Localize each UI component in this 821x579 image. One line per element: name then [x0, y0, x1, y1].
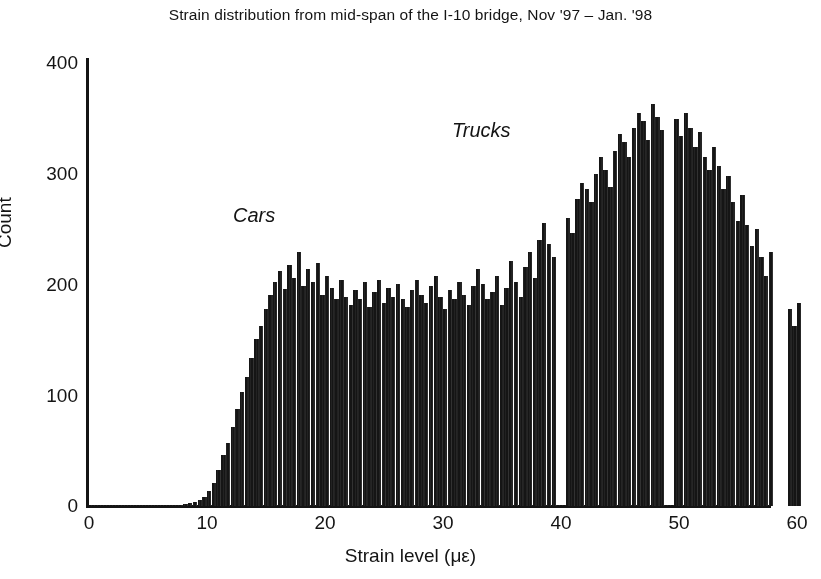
histogram-bar: [731, 202, 735, 506]
histogram-bar: [651, 104, 655, 506]
histogram-bar: [429, 286, 433, 506]
histogram-bar: [490, 292, 494, 506]
histogram-bars: [89, 62, 797, 506]
chart-title: Strain distribution from mid-span of the…: [0, 6, 821, 24]
histogram-bar: [448, 290, 452, 506]
histogram-bar: [504, 288, 508, 506]
histogram-bar: [674, 119, 678, 506]
histogram-bar: [627, 157, 631, 506]
histogram-bar: [438, 297, 442, 506]
histogram-bar: [471, 286, 475, 506]
histogram-bar: [726, 176, 730, 506]
histogram-bar: [344, 297, 348, 506]
histogram-bar: [523, 267, 527, 506]
histogram-bar: [287, 265, 291, 506]
x-tick-label-50: 50: [668, 512, 689, 534]
histogram-bar: [202, 497, 206, 507]
histogram-bar: [372, 292, 376, 506]
annotation-trucks: Trucks: [452, 119, 511, 142]
histogram-bar: [264, 309, 268, 506]
x-tick-label-40: 40: [550, 512, 571, 534]
histogram-bar: [216, 470, 220, 506]
histogram-bar: [457, 282, 461, 506]
histogram-bar: [212, 483, 216, 506]
histogram-bar: [268, 295, 272, 506]
histogram-bar: [367, 307, 371, 506]
histogram-bar: [207, 491, 211, 506]
histogram-bar: [221, 455, 225, 506]
histogram-bar: [386, 288, 390, 506]
histogram-bar: [745, 225, 749, 506]
histogram-bar: [750, 246, 754, 506]
histogram-bar: [500, 305, 504, 506]
histogram-bar: [311, 282, 315, 506]
histogram-bar: [188, 503, 192, 506]
histogram-bar: [452, 299, 456, 506]
histogram-bar: [231, 427, 235, 506]
histogram-bar: [707, 170, 711, 506]
histogram-bar: [509, 261, 513, 506]
histogram-bar: [533, 278, 537, 506]
histogram-bar: [382, 303, 386, 506]
histogram-bar: [613, 151, 617, 506]
histogram-bar: [424, 303, 428, 506]
histogram-bar: [419, 295, 423, 506]
histogram-bar: [552, 257, 556, 506]
histogram-bar: [235, 409, 239, 506]
histogram-bar: [646, 140, 650, 506]
histogram-bar: [316, 263, 320, 506]
histogram-bar: [193, 502, 197, 506]
histogram-bar: [415, 280, 419, 506]
histogram-bar: [358, 299, 362, 506]
histogram-bar: [301, 286, 305, 506]
histogram-bar: [240, 392, 244, 506]
x-tick-label-20: 20: [314, 512, 335, 534]
histogram-bar: [622, 142, 626, 506]
histogram-bar: [273, 282, 277, 506]
histogram-bar: [703, 157, 707, 506]
histogram-bar: [740, 195, 744, 506]
histogram-bar: [637, 113, 641, 506]
histogram-bar: [721, 189, 725, 506]
histogram-bar: [306, 269, 310, 506]
histogram-bar: [434, 276, 438, 506]
histogram-bar: [462, 295, 466, 506]
histogram-bar: [797, 303, 801, 506]
histogram-bar: [485, 299, 489, 506]
histogram-bar: [632, 128, 636, 506]
annotation-cars: Cars: [233, 204, 275, 227]
histogram-bar: [183, 504, 187, 506]
histogram-bar: [792, 326, 796, 506]
histogram-bar: [566, 218, 570, 506]
histogram-bar: [443, 309, 447, 506]
y-tick-label-0: 0: [0, 495, 78, 517]
histogram-bar: [349, 305, 353, 506]
x-tick-label-30: 30: [432, 512, 453, 534]
y-tick-label-400: 400: [0, 52, 78, 74]
histogram-bar: [655, 117, 659, 506]
histogram-bar: [519, 297, 523, 506]
histogram-bar: [594, 174, 598, 506]
histogram-bar: [603, 170, 607, 506]
histogram-bar: [528, 252, 532, 506]
histogram-bar: [759, 257, 763, 506]
histogram-bar: [599, 157, 603, 506]
histogram-bar: [325, 276, 329, 506]
histogram-bar: [401, 299, 405, 506]
histogram-bar: [693, 147, 697, 506]
y-tick-label-200: 200: [0, 274, 78, 296]
histogram-bar: [608, 187, 612, 506]
histogram-bar: [320, 295, 324, 506]
histogram-bar: [580, 183, 584, 506]
histogram-bar: [679, 136, 683, 506]
histogram-bar: [660, 130, 664, 506]
histogram-bar: [330, 288, 334, 506]
x-tick-label-0: 0: [84, 512, 95, 534]
histogram-bar: [278, 271, 282, 506]
figure-canvas: Strain distribution from mid-span of the…: [0, 0, 821, 579]
histogram-bar: [259, 326, 263, 506]
histogram-bar: [585, 189, 589, 506]
histogram-bar: [618, 134, 622, 506]
histogram-bar: [254, 339, 258, 506]
y-tick-label-100: 100: [0, 385, 78, 407]
